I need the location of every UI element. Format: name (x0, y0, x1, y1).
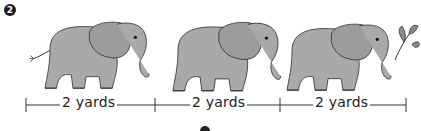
measurement-label: 2 yards (313, 94, 370, 110)
elephant-1-icon (30, 22, 150, 88)
page-mark (200, 126, 210, 131)
measurement-label: 2 yards (190, 94, 247, 110)
elephants-illustration (0, 0, 421, 131)
elephant-3-icon (287, 24, 391, 90)
elephant-2-icon (173, 22, 281, 90)
leaf-branch-icon (395, 25, 419, 60)
measurement-label: 2 yards (60, 94, 117, 110)
